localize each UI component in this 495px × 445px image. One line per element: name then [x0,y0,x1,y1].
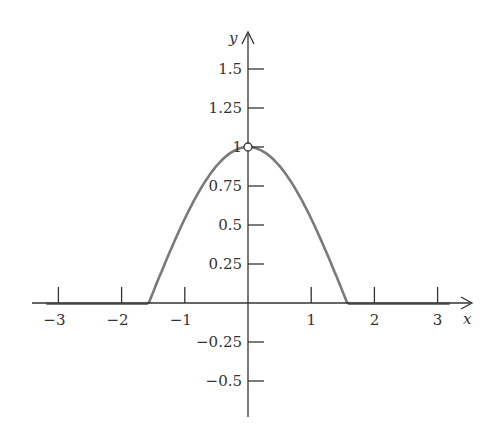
cosine-chart: −3−2−1123 1.51.2510.750.50.25−0.25−0.5 x… [0,0,495,445]
y-tick-label: 1 [232,138,242,156]
y-tick-label: 0.5 [218,216,242,234]
open-circle-marker [244,143,252,151]
y-tick-label: −0.5 [206,372,242,390]
y-tick-label: 1.5 [218,60,242,78]
x-tick-label: 1 [306,311,316,329]
y-tick-label: 0.25 [209,255,242,273]
y-tick-label: −0.25 [196,333,242,351]
y-tick-label: 1.25 [209,99,242,117]
x-tick-label: 3 [433,311,443,329]
x-tick-label: −2 [107,311,129,329]
y-axis-label: y [228,29,238,47]
x-tick-label: −1 [170,311,192,329]
x-axis-label: x [463,310,472,328]
x-ticks: −3−2−1123 [43,287,442,329]
y-ticks: 1.51.2510.750.50.25−0.25−0.5 [196,60,264,390]
y-tick-label: 0.75 [209,177,242,195]
x-tick-label: 2 [370,311,380,329]
x-tick-label: −3 [43,311,65,329]
